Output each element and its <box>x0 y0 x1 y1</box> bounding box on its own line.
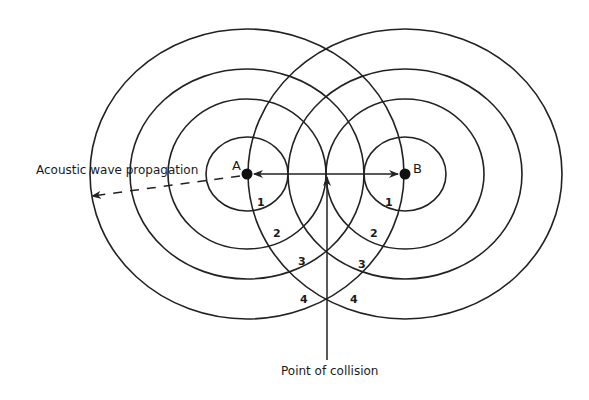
ring-label-right-2: 2 <box>370 227 378 240</box>
ring-label-left-2: 2 <box>273 227 281 240</box>
ring-label-right-3: 3 <box>358 258 366 271</box>
propagation-arrow <box>92 176 240 196</box>
source-a-point <box>242 169 253 180</box>
propagation-label: Acoustic wave propagation <box>36 163 198 177</box>
source-a-label: A <box>232 158 241 173</box>
ring-label-left-4: 4 <box>300 293 308 306</box>
wave-interference-diagram: A B 1 2 3 4 1 2 3 4 Acoustic wave propag… <box>0 0 589 400</box>
ring-label-right-1: 1 <box>385 196 393 209</box>
ring-label-left-1: 1 <box>257 196 265 209</box>
collision-label: Point of collision <box>281 364 378 378</box>
ring-label-right-4: 4 <box>350 293 358 306</box>
ring-label-left-3: 3 <box>298 255 306 268</box>
source-b-label: B <box>413 161 422 176</box>
source-b-point <box>400 169 411 180</box>
